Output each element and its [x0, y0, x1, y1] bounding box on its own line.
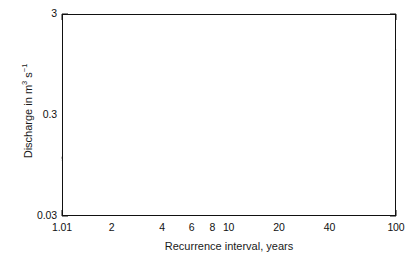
x-axis-title: Recurrence interval, years [62, 240, 396, 252]
y-tick-label: 3 [11, 7, 57, 19]
figure: 30.30.031.012468102040100 Discharge in m… [0, 0, 419, 264]
y-axis-title: Discharge in m3 s−1 [22, 21, 34, 201]
y-tick-label: 0.3 [11, 108, 57, 120]
x-tick-label: 100 [374, 221, 418, 233]
y-axis-exponent-3: 3 [20, 81, 29, 85]
y-axis-exponent-minus1: −1 [20, 64, 29, 73]
x-tick-label: 1.01 [40, 221, 84, 233]
x-tick-label: 10 [207, 221, 251, 233]
x-tick-label: 40 [307, 221, 351, 233]
y-tick-label: 0.03 [11, 209, 57, 221]
x-tick-label: 2 [90, 221, 134, 233]
x-tick-label: 20 [257, 221, 301, 233]
plot-area [62, 14, 396, 216]
y-axis-title-text: Discharge in m3 s−1 [22, 64, 34, 159]
